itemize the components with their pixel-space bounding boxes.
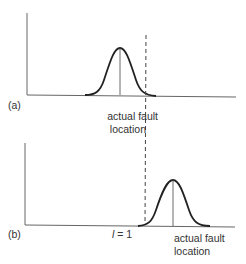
panel-b-annotation: actual fault location [174, 232, 225, 258]
panel-a-annotation: actual fault location [78, 110, 158, 136]
panel-b-axes [25, 143, 235, 227]
threshold-value: = 1 [114, 228, 132, 240]
panel-b-annotation-line1: actual fault [174, 232, 225, 245]
threshold-label: l = 1 [112, 228, 132, 241]
panel-a-annotation-line1: actual fault [78, 110, 158, 123]
panel-b-annotation-line2: location [174, 245, 225, 258]
panel-b-distribution-curve [138, 180, 210, 226]
panel-a-tag: (a) [8, 99, 21, 112]
panel-a-axes [27, 13, 236, 97]
panel-b-tag: (b) [8, 228, 21, 241]
panel-a-annotation-line2: location [78, 123, 158, 136]
